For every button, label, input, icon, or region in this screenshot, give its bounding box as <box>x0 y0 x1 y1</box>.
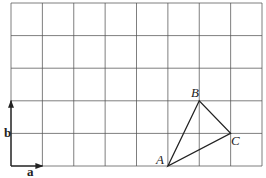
basis-vectors: a b <box>4 101 42 178</box>
vector-b-label: b <box>4 125 11 140</box>
vector-a-label: a <box>27 164 34 178</box>
point-b-label: B <box>191 85 199 100</box>
grid-lines <box>11 3 262 166</box>
point-a-label: A <box>155 152 164 167</box>
point-c-label: C <box>231 133 240 148</box>
grid-diagram: a b A B C <box>0 0 266 178</box>
